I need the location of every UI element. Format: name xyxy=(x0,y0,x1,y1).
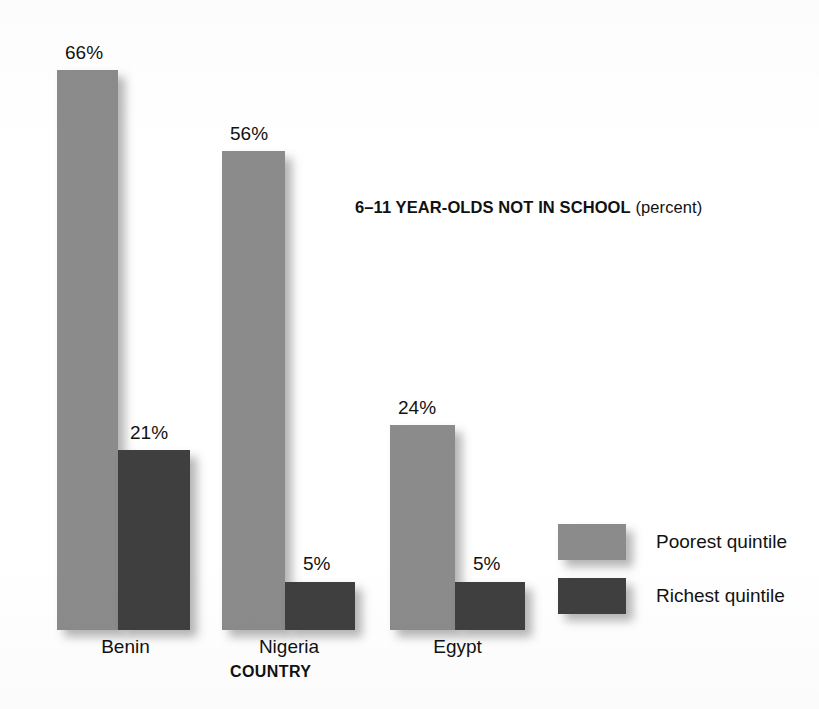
bar-egypt-richest xyxy=(455,582,525,630)
x-tick-label-benin: Benin xyxy=(58,636,193,658)
bar-egypt-poorest xyxy=(390,425,455,630)
bar-nigeria-poorest xyxy=(222,151,285,630)
legend-label-poorest: Poorest quintile xyxy=(656,531,787,553)
legend-label-richest: Richest quintile xyxy=(656,585,785,607)
x-axis-title: COUNTRY xyxy=(230,663,311,681)
bar-benin-poorest xyxy=(57,70,118,630)
bar-value-benin-richest: 21% xyxy=(130,422,168,444)
legend-item-richest: Richest quintile xyxy=(558,578,785,614)
legend-swatch-poorest-icon xyxy=(558,524,626,560)
bar-chart: 6–11 YEAR-OLDS NOT IN SCHOOL (percent) 6… xyxy=(0,0,819,709)
bar-value-benin-poorest: 66% xyxy=(65,42,103,64)
legend-swatch-richest-icon xyxy=(558,578,626,614)
bar-benin-richest xyxy=(118,450,190,630)
bar-value-nigeria-poorest: 56% xyxy=(230,123,268,145)
bar-value-egypt-poorest: 24% xyxy=(398,397,436,419)
legend-item-poorest: Poorest quintile xyxy=(558,524,787,560)
bar-nigeria-richest xyxy=(285,582,355,630)
bar-value-nigeria-richest: 5% xyxy=(303,553,330,575)
bar-value-egypt-richest: 5% xyxy=(473,553,500,575)
x-tick-label-egypt: Egypt xyxy=(390,636,525,658)
x-tick-label-nigeria: Nigeria xyxy=(222,636,356,658)
